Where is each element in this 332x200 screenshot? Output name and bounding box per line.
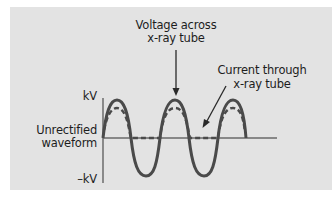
axis-top-label: kV <box>83 90 97 103</box>
voltage-arrowhead <box>173 88 180 96</box>
waveform-label-line2: waveform <box>41 137 97 150</box>
current-label-line2: x-ray tube <box>233 78 290 91</box>
voltage-label-line2: x-ray tube <box>147 32 204 45</box>
current-arrowhead <box>203 119 211 128</box>
axis-bottom-label: –kV <box>77 173 97 186</box>
current-label-line1: Current through <box>217 64 306 77</box>
